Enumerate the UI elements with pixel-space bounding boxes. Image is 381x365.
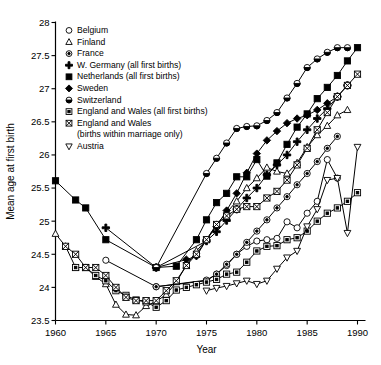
data-point-marker xyxy=(234,269,240,275)
data-point-marker xyxy=(224,213,230,219)
data-point-marker xyxy=(153,264,159,270)
data-point-marker xyxy=(324,156,330,162)
data-point-marker xyxy=(334,133,340,139)
data-point-marker xyxy=(224,271,230,277)
x-tick-label: 1965 xyxy=(95,327,116,338)
data-point-marker xyxy=(254,248,260,254)
legend-item-label: France xyxy=(77,48,104,58)
data-point-marker xyxy=(354,190,360,196)
data-point-marker xyxy=(93,264,99,270)
data-point-marker xyxy=(153,304,159,310)
data-point-marker xyxy=(254,238,260,244)
data-point-marker xyxy=(284,219,290,225)
data-point-marker xyxy=(103,257,109,263)
legend-item-label: Finland xyxy=(77,37,105,47)
chart-container: 23.52424.52525.52626.52727.5281960196519… xyxy=(0,0,381,365)
data-point-marker xyxy=(274,188,280,194)
x-tick-label: 1970 xyxy=(146,327,167,338)
data-point-marker xyxy=(173,287,179,293)
data-point-marker xyxy=(103,237,109,243)
data-point-marker xyxy=(203,279,209,285)
data-point-marker xyxy=(52,178,58,184)
y-tick-label: 27.5 xyxy=(31,50,50,61)
data-point-marker xyxy=(213,200,219,206)
legend-item-label: Netherlands (all first births) xyxy=(77,71,180,81)
data-point-marker xyxy=(264,217,270,223)
data-point-marker xyxy=(314,158,320,164)
data-point-marker xyxy=(73,264,79,270)
y-tick-label: 27 xyxy=(39,83,50,94)
data-point-marker xyxy=(83,205,89,211)
data-point-marker xyxy=(294,162,300,168)
data-point-marker xyxy=(264,243,270,249)
data-point-marker xyxy=(73,251,79,257)
data-point-marker xyxy=(224,261,230,267)
data-point-marker xyxy=(123,294,129,300)
data-point-marker xyxy=(213,155,219,161)
data-point-marker xyxy=(274,235,280,241)
data-point-marker xyxy=(284,95,290,101)
data-point-marker xyxy=(284,177,290,183)
x-tick-label: 1975 xyxy=(196,327,217,338)
data-point-marker xyxy=(304,210,310,216)
y-tick-label: 24.5 xyxy=(31,249,50,260)
data-point-marker xyxy=(203,217,209,223)
data-point-marker xyxy=(314,127,320,133)
data-point-marker xyxy=(314,96,320,102)
data-point-marker xyxy=(294,80,300,86)
data-point-marker xyxy=(304,170,310,176)
data-point-marker xyxy=(153,298,159,304)
data-point-marker xyxy=(274,160,280,166)
legend-item-label: England and Wales (all first births) xyxy=(77,106,208,116)
data-point-marker xyxy=(143,298,149,304)
y-tick-label: 28 xyxy=(39,17,50,28)
data-point-marker xyxy=(183,262,189,268)
data-point-marker xyxy=(334,72,340,78)
data-point-marker xyxy=(324,210,330,216)
y-tick-label: 23.5 xyxy=(31,315,50,326)
data-point-marker xyxy=(66,109,72,115)
data-point-marker xyxy=(264,117,270,123)
data-point-marker xyxy=(294,235,300,241)
legend-item-label: Austria xyxy=(77,141,104,151)
data-point-marker xyxy=(213,276,219,282)
data-point-marker xyxy=(203,237,209,243)
data-point-marker xyxy=(314,56,320,62)
mean-age-first-birth-line-chart: 23.52424.52525.52626.52727.5281960196519… xyxy=(0,0,381,365)
legend-item: England and Wales (all first births) xyxy=(66,106,208,116)
x-tick-label: 1985 xyxy=(297,327,318,338)
data-point-marker xyxy=(264,237,270,243)
data-point-marker xyxy=(113,284,119,290)
data-point-marker xyxy=(203,170,209,176)
legend-item: England and Wales xyxy=(66,118,151,128)
data-point-marker xyxy=(344,82,350,88)
x-tick-label: 1960 xyxy=(45,327,66,338)
data-point-marker xyxy=(324,109,330,115)
data-point-marker xyxy=(234,206,240,212)
data-point-marker xyxy=(354,45,360,51)
data-point-marker xyxy=(324,145,330,151)
data-point-marker xyxy=(324,84,330,90)
data-point-marker xyxy=(294,225,300,231)
data-point-marker xyxy=(93,272,99,278)
data-point-marker xyxy=(183,284,189,290)
data-point-marker xyxy=(264,195,270,201)
data-point-marker xyxy=(294,124,300,130)
legend-item-label: England and Wales xyxy=(77,118,151,128)
data-point-marker xyxy=(334,94,340,100)
data-point-marker xyxy=(213,221,219,227)
data-point-marker xyxy=(66,74,72,80)
legend-item: (births within marriage only) xyxy=(77,129,183,139)
data-point-marker xyxy=(234,174,240,180)
data-point-marker xyxy=(163,288,169,294)
data-point-marker xyxy=(224,190,230,196)
data-point-marker xyxy=(193,237,199,243)
data-point-marker xyxy=(244,259,250,265)
y-tick-label: 26.5 xyxy=(31,116,50,127)
data-point-marker xyxy=(62,243,68,249)
data-point-marker xyxy=(66,97,72,103)
y-axis-title: Mean age at first birth xyxy=(5,123,16,220)
data-point-marker xyxy=(274,109,280,115)
legend-item: Netherlands (all first births) xyxy=(66,71,180,81)
data-point-marker xyxy=(73,197,79,203)
